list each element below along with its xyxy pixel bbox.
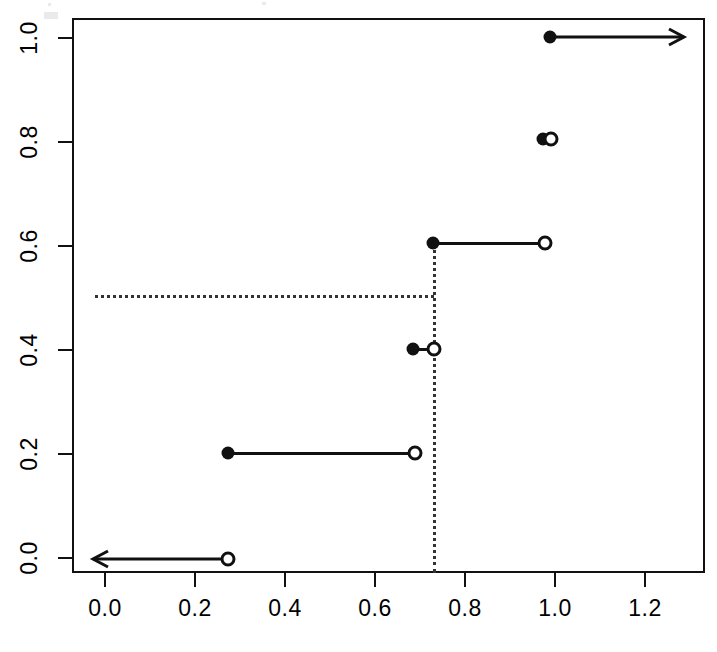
- reference-line-vertical: [433, 243, 436, 573]
- step-segment-1: [228, 452, 415, 455]
- step-closed-point-1: [222, 447, 235, 460]
- x-tick-label-3: 0.6: [358, 595, 391, 622]
- x-tick-6: [644, 573, 646, 587]
- y-tick-3: [58, 245, 72, 247]
- scan-artifact: [48, 3, 51, 6]
- y-tick-label-0: 0.0: [16, 541, 43, 574]
- x-tick-label-4: 0.8: [448, 595, 481, 622]
- y-tick-2: [58, 349, 72, 351]
- x-tick-5: [554, 573, 556, 587]
- scan-artifact: [262, 2, 266, 5]
- x-tick-label-1: 0.2: [178, 595, 211, 622]
- step-open-point-3: [538, 236, 553, 251]
- x-tick-label-2: 0.4: [268, 595, 301, 622]
- x-tick-label-0: 0.0: [88, 595, 121, 622]
- scan-artifact: [44, 12, 58, 19]
- y-tick-0: [58, 557, 72, 559]
- plot-canvas: 0.0 0.2 0.4 0.6 0.8 1.0 1.2 0.0 0.2 0.4 …: [0, 0, 717, 652]
- y-tick-label-5: 1.0: [16, 21, 43, 54]
- step-open-point-2: [427, 342, 442, 357]
- step-closed-point-5: [544, 31, 557, 44]
- y-tick-4: [58, 141, 72, 143]
- y-tick-label-1: 0.2: [16, 437, 43, 470]
- y-tick-5: [58, 37, 72, 39]
- step-closed-point-2: [407, 343, 420, 356]
- step-segment-3: [433, 242, 545, 245]
- step-closed-point-3: [427, 237, 440, 250]
- x-tick-2: [284, 573, 286, 587]
- x-tick-0: [104, 573, 106, 587]
- x-tick-label-6: 1.2: [628, 595, 661, 622]
- step-open-point-4: [544, 132, 559, 147]
- x-tick-3: [374, 573, 376, 587]
- step-arrow-left: [88, 548, 233, 570]
- reference-line-horizontal: [95, 295, 434, 298]
- x-tick-label-5: 1.0: [538, 595, 571, 622]
- y-tick-label-4: 0.8: [16, 125, 43, 158]
- y-tick-label-2: 0.4: [16, 333, 43, 366]
- step-arrow-right: [550, 26, 690, 48]
- y-tick-1: [58, 453, 72, 455]
- step-open-point-0: [221, 552, 236, 567]
- x-tick-1: [194, 573, 196, 587]
- y-tick-label-3: 0.6: [16, 229, 43, 262]
- x-tick-4: [464, 573, 466, 587]
- step-open-point-1: [408, 446, 423, 461]
